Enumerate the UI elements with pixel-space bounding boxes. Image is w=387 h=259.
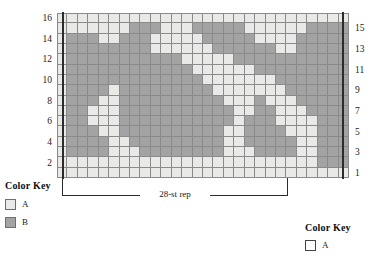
chart-cell[interactable] — [328, 126, 338, 136]
chart-cell[interactable] — [255, 126, 265, 136]
chart-cell[interactable] — [297, 85, 307, 95]
chart-cell[interactable] — [307, 116, 317, 126]
chart-cell[interactable] — [307, 137, 317, 147]
chart-cell[interactable] — [130, 96, 140, 106]
chart-cell[interactable] — [78, 85, 88, 95]
chart-cell[interactable] — [120, 147, 130, 157]
chart-cell[interactable] — [224, 168, 234, 178]
chart-cell[interactable] — [151, 137, 161, 147]
chart-cell[interactable] — [307, 23, 317, 33]
chart-cell[interactable] — [88, 106, 98, 116]
chart-cell[interactable] — [234, 23, 244, 33]
chart-cell[interactable] — [328, 137, 338, 147]
chart-cell[interactable] — [266, 34, 276, 44]
chart-cell[interactable] — [130, 157, 140, 167]
chart-cell[interactable] — [182, 65, 192, 75]
chart-cell[interactable] — [245, 75, 255, 85]
chart-cell[interactable] — [88, 168, 98, 178]
chart-cell[interactable] — [140, 168, 150, 178]
chart-cell[interactable] — [67, 65, 77, 75]
chart-cell[interactable] — [318, 54, 328, 64]
chart-cell[interactable] — [307, 85, 317, 95]
chart-cell[interactable] — [99, 23, 109, 33]
chart-cell[interactable] — [172, 147, 182, 157]
chart-cell[interactable] — [328, 65, 338, 75]
chart-cell[interactable] — [140, 13, 150, 23]
chart-cell[interactable] — [140, 126, 150, 136]
chart-cell[interactable] — [67, 106, 77, 116]
chart-cell[interactable] — [224, 96, 234, 106]
chart-cell[interactable] — [276, 54, 286, 64]
chart-cell[interactable] — [255, 85, 265, 95]
chart-cell[interactable] — [234, 44, 244, 54]
chart-cell[interactable] — [109, 75, 119, 85]
chart-cell[interactable] — [224, 65, 234, 75]
chart-cell[interactable] — [109, 126, 119, 136]
chart-cell[interactable] — [109, 137, 119, 147]
chart-cell[interactable] — [130, 23, 140, 33]
chart-cell[interactable] — [224, 137, 234, 147]
chart-cell[interactable] — [193, 126, 203, 136]
chart-cell[interactable] — [120, 34, 130, 44]
chart-cell[interactable] — [182, 147, 192, 157]
chart-cell[interactable] — [78, 116, 88, 126]
chart-cell[interactable] — [318, 96, 328, 106]
chart-cell[interactable] — [130, 65, 140, 75]
chart-cell[interactable] — [286, 54, 296, 64]
chart-cell[interactable] — [130, 106, 140, 116]
chart-cell[interactable] — [151, 44, 161, 54]
chart-cell[interactable] — [266, 106, 276, 116]
chart-cell[interactable] — [318, 126, 328, 136]
chart-cell[interactable] — [140, 96, 150, 106]
chart-cell[interactable] — [276, 34, 286, 44]
chart-cell[interactable] — [213, 137, 223, 147]
chart-cell[interactable] — [203, 116, 213, 126]
chart-cell[interactable] — [307, 34, 317, 44]
chart-cell[interactable] — [120, 106, 130, 116]
chart-cell[interactable] — [151, 65, 161, 75]
chart-cell[interactable] — [67, 168, 77, 178]
chart-cell[interactable] — [255, 157, 265, 167]
chart-cell[interactable] — [172, 85, 182, 95]
chart-cell[interactable] — [193, 147, 203, 157]
chart-cell[interactable] — [213, 106, 223, 116]
chart-cell[interactable] — [245, 168, 255, 178]
chart-cell[interactable] — [224, 106, 234, 116]
chart-cell[interactable] — [203, 106, 213, 116]
chart-cell[interactable] — [286, 85, 296, 95]
chart-cell[interactable] — [318, 23, 328, 33]
chart-cell[interactable] — [161, 106, 171, 116]
chart-cell[interactable] — [130, 44, 140, 54]
chart-cell[interactable] — [213, 54, 223, 64]
chart-cell[interactable] — [140, 137, 150, 147]
chart-cell[interactable] — [109, 34, 119, 44]
chart-cell[interactable] — [88, 116, 98, 126]
chart-cell[interactable] — [193, 168, 203, 178]
chart-cell[interactable] — [328, 75, 338, 85]
chart-cell[interactable] — [78, 157, 88, 167]
chart-cell[interactable] — [266, 116, 276, 126]
chart-cell[interactable] — [130, 13, 140, 23]
chart-cell[interactable] — [99, 116, 109, 126]
chart-cell[interactable] — [172, 44, 182, 54]
chart-cell[interactable] — [245, 44, 255, 54]
chart-cell[interactable] — [213, 157, 223, 167]
chart-cell[interactable] — [224, 116, 234, 126]
chart-cell[interactable] — [151, 23, 161, 33]
chart-cell[interactable] — [151, 116, 161, 126]
chart-cell[interactable] — [78, 65, 88, 75]
chart-cell[interactable] — [213, 147, 223, 157]
chart-cell[interactable] — [328, 147, 338, 157]
chart-cell[interactable] — [120, 65, 130, 75]
chart-cell[interactable] — [307, 126, 317, 136]
chart-cell[interactable] — [245, 116, 255, 126]
chart-cell[interactable] — [224, 44, 234, 54]
chart-cell[interactable] — [255, 75, 265, 85]
chart-cell[interactable] — [307, 13, 317, 23]
chart-cell[interactable] — [99, 106, 109, 116]
chart-cell[interactable] — [172, 116, 182, 126]
chart-cell[interactable] — [172, 65, 182, 75]
chart-cell[interactable] — [255, 23, 265, 33]
chart-grid[interactable] — [57, 13, 349, 178]
chart-cell[interactable] — [245, 54, 255, 64]
